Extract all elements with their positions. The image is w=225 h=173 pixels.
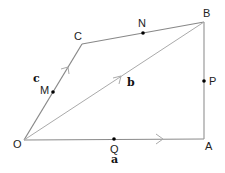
- point-P: [202, 79, 206, 83]
- point-M: [51, 90, 55, 94]
- vector-label-a: a: [111, 153, 118, 166]
- label-P: P: [209, 75, 216, 87]
- label-A: A: [205, 140, 213, 152]
- vector-label-b: b: [127, 76, 135, 89]
- point-Q: [112, 137, 116, 141]
- label-B: B: [203, 7, 210, 19]
- vector-label-c: c: [33, 72, 40, 85]
- label-O: O: [13, 138, 22, 150]
- label-N: N: [138, 17, 146, 29]
- vector-diagram: O A B C M N P Q a b c: [0, 0, 225, 173]
- label-M: M: [40, 84, 49, 96]
- label-C: C: [74, 30, 82, 42]
- segment-OB: [24, 22, 204, 140]
- point-N: [141, 31, 145, 35]
